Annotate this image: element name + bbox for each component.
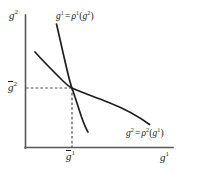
curve-best-response-1 bbox=[57, 24, 89, 132]
axis-label-x-sup: 1 bbox=[166, 150, 170, 157]
tick-label-x-sup: 1 bbox=[72, 149, 76, 156]
tick-label-x-base: g bbox=[66, 151, 72, 162]
axis-label-y-sup: 2 bbox=[15, 8, 19, 15]
tick-label-y-base: g bbox=[8, 82, 14, 93]
curve-label-best-response-1: g1=ρ1(g2) bbox=[56, 12, 94, 22]
curve-label-1-close: ) bbox=[90, 11, 93, 21]
reaction-function-figure: g2 g1 g2 g1 g1=ρ1(g2) g2=ρ2(g1) bbox=[0, 0, 202, 173]
axis-label-x: g1 bbox=[160, 152, 169, 163]
tick-label-y-equilibrium: g2 bbox=[8, 82, 17, 93]
tick-label-x-equilibrium: g1 bbox=[66, 151, 75, 162]
tick-label-y-sup: 2 bbox=[14, 80, 18, 87]
curve-label-best-response-2: g2=ρ2(g1) bbox=[126, 129, 164, 139]
plot-canvas bbox=[0, 0, 202, 173]
curve-label-2-close: ) bbox=[160, 128, 163, 138]
axis-label-y: g2 bbox=[9, 10, 18, 21]
